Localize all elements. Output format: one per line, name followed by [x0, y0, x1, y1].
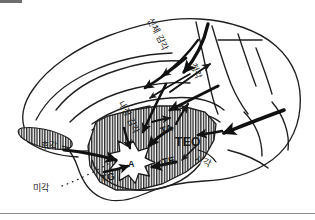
figure-page: 신체 감각 청각 내장 감각 시각 후각 미각 TA TE TG TEO A: [0, 0, 315, 220]
label-area-teo: TEO: [175, 136, 201, 148]
sulcus-7: [256, 48, 272, 94]
label-amygdala: A: [128, 160, 135, 169]
sulcus-6: [238, 34, 256, 86]
arrow-auditory-2: [150, 74, 190, 98]
sulcus-occipital-2: [272, 102, 288, 150]
bottom-divider: [0, 213, 315, 214]
label-gustatory: 미각: [33, 184, 49, 193]
sulcus-5: [212, 26, 248, 114]
label-olfactory: 후각: [41, 142, 57, 151]
arrow-visual-main: [224, 110, 284, 133]
